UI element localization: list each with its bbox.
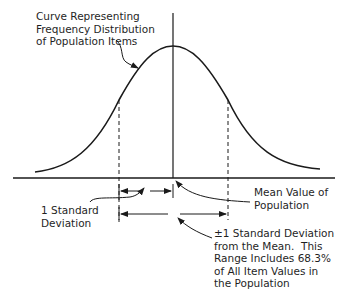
mean-leader-arrow [176, 181, 250, 202]
curve-label: Curve Representing Frequency Distributio… [36, 10, 155, 48]
bell-curve [35, 46, 320, 172]
range-label: ±1 Standard Deviation from the Mean. Thi… [214, 227, 334, 290]
mean-label: Mean Value of Population [254, 186, 328, 211]
range-leader-arrow [178, 218, 212, 238]
one-sd-label: 1 Standard Deviation [41, 204, 99, 229]
one-sd-leader-arrow [90, 188, 144, 202]
